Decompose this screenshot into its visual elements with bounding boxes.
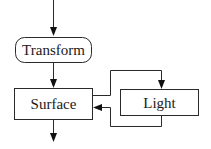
- node-light: Light: [121, 90, 199, 116]
- edge-surface-to-output: [50, 120, 57, 143]
- node-transform-label: Transform: [22, 42, 85, 58]
- node-surface-label: Surface: [31, 96, 77, 112]
- node-light-label: Light: [143, 95, 176, 111]
- edge-transform-to-surface: [50, 63, 57, 89]
- node-surface: Surface: [15, 89, 93, 120]
- flowchart-diagram: Transform Surface Light: [0, 0, 211, 149]
- edge-input-to-transform: [50, 0, 57, 36]
- node-transform: Transform: [16, 38, 92, 63]
